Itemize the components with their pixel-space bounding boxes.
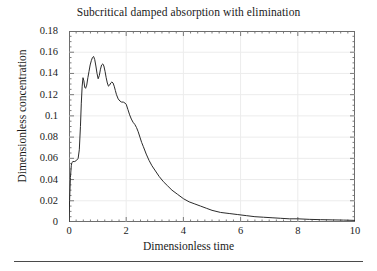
y-tick-label: 0.1 <box>45 111 58 122</box>
y-tick-label: 0.06 <box>40 153 58 164</box>
chart-title: Subcritical damped absorption with elimi… <box>0 6 377 18</box>
y-axis-tick-labels: 00.020.040.060.080.10.120.140.160.18 <box>0 31 64 222</box>
grid-lines <box>69 31 355 222</box>
y-tick-label: 0.08 <box>40 132 58 143</box>
x-tick-label: 2 <box>124 226 129 237</box>
footer-divider <box>14 261 363 262</box>
y-tick-label: 0.12 <box>40 89 58 100</box>
x-axis-title: Dimensionless time <box>0 240 377 252</box>
x-tick-label: 6 <box>238 226 243 237</box>
y-tick-label: 0.14 <box>40 68 58 79</box>
x-tick-label: 10 <box>350 226 361 237</box>
x-tick-label: 0 <box>66 226 71 237</box>
y-tick-label: 0.18 <box>40 26 58 37</box>
data-line-series <box>69 56 355 222</box>
tick-marks <box>69 31 355 222</box>
y-tick-label: 0 <box>53 217 58 228</box>
y-tick-label: 0.04 <box>40 174 58 185</box>
x-tick-label: 4 <box>181 226 186 237</box>
y-tick-label: 0.16 <box>40 47 58 58</box>
plot-area <box>69 31 355 222</box>
y-tick-label: 0.02 <box>40 196 58 207</box>
y-axis-title: Dimensionless concentration <box>16 16 28 216</box>
x-tick-label: 8 <box>295 226 300 237</box>
chart-figure: Subcritical damped absorption with elimi… <box>0 0 377 271</box>
plot-canvas <box>69 31 355 222</box>
